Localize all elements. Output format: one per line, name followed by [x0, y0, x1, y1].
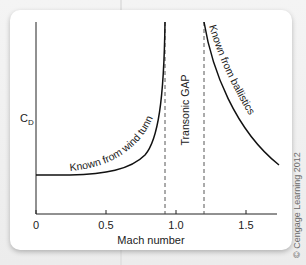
x-tick-label-1-0: 1.0 — [168, 219, 183, 231]
ballistics-label: Known from ballistics — [207, 23, 258, 116]
transonic-gap-label: Transonic GAP — [179, 75, 191, 146]
wind-tunnel-curve — [36, 22, 165, 175]
svg-text:C: C — [20, 112, 28, 124]
x-axis-label: Mach number — [117, 234, 185, 246]
y-axis-label: C D — [20, 112, 34, 127]
svg-text:D: D — [28, 118, 34, 127]
x-ticks — [36, 210, 246, 214]
wind-tunnel-label: Known from wind tunnel data — [0, 0, 155, 173]
copyright-notice: © Cengage Learning 2012 — [292, 152, 302, 258]
drag-coefficient-chart: 0 0.5 1.0 1.5 Mach number C D Known from… — [0, 0, 306, 265]
x-tick-label-0-5: 0.5 — [98, 219, 113, 231]
x-tick-label-1-5: 1.5 — [238, 219, 253, 231]
x-tick-label-0: 0 — [33, 219, 39, 231]
